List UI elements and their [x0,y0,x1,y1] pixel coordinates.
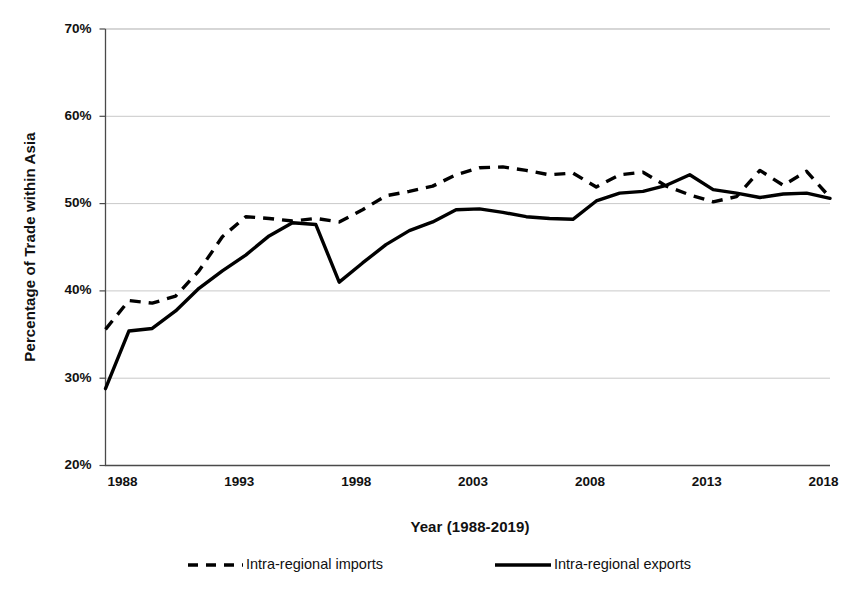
x-tick-label: 1988 [107,474,138,489]
y-axis-title: Percentage of Trade within Asia [21,132,38,362]
series-group [106,167,831,389]
line-chart: 70%60%50%40%30%20% 198819931998200320082… [0,0,842,603]
chart-figure: 70%60%50%40%30%20% 198819931998200320082… [0,0,842,603]
x-axis-title: Year (1988-2019) [410,518,529,535]
x-tick-label: 2003 [458,474,489,489]
x-tick-label: 2013 [692,474,723,489]
legend-item-intra-regional-imports[interactable]: Intra-regional imports [188,556,383,572]
y-tick-label: 60% [64,108,91,123]
y-tick-label: 70% [64,21,91,36]
x-tick-label: 2018 [809,474,840,489]
legend-item-intra-regional-exports[interactable]: Intra-regional exports [495,556,691,572]
x-tick-label: 1993 [224,474,255,489]
y-tick-label: 50% [64,195,91,210]
y-axis-tick-labels: 70%60%50%40%30%20% [64,21,105,473]
x-axis-tick-labels: 1988199319982003200820132018 [107,474,839,489]
y-tick-label: 40% [64,282,91,297]
gridlines [106,29,831,378]
y-tick-label: 20% [64,457,91,472]
plot-axes [106,29,831,466]
series-line-intra-regional-exports [106,175,831,389]
legend-label-exports: Intra-regional exports [554,556,691,572]
x-tick-label: 1998 [341,474,372,489]
x-tick-label: 2008 [575,474,606,489]
y-tick-label: 30% [64,370,91,385]
legend: Intra-regional imports Intra-regional ex… [188,556,691,572]
legend-label-imports: Intra-regional imports [246,556,383,572]
